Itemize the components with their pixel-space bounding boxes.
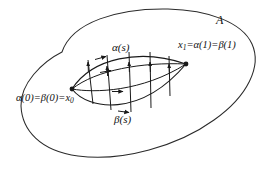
basepoint-x0-label: α(0)=β(0)=x0 [16, 93, 74, 104]
basepoint-x0-subscript: 0 [70, 96, 74, 105]
homotopy-lens [70, 52, 189, 113]
beta-path-label: β(s) [114, 114, 131, 125]
endpoint-x1-equality: =α(1)=β(1) [186, 39, 235, 50]
basepoint-x0-dot [70, 87, 75, 92]
region-A-boundary [21, 9, 255, 157]
alpha-path-label: α(s) [112, 42, 129, 53]
basepoint-x0-equality: α(0)=β(0)=x [16, 92, 70, 103]
homotopy-segment-4 [150, 52, 151, 108]
homotopy-segment-1 [88, 60, 93, 104]
endpoint-x1-dot [184, 62, 189, 67]
alpha-direction-arrow [95, 57, 106, 60]
homotopy-segment-5 [169, 56, 170, 96]
homotopy-segment-2 [107, 55, 111, 110]
homotopy-diagram: A α(s) β(s) x1=α(1)=β(1) α(0)=β(0)=x0 [0, 0, 269, 173]
endpoint-x1-label: x1=α(1)=β(1) [178, 40, 236, 51]
region-label-A: A [216, 14, 223, 26]
diagram-canvas [0, 0, 269, 173]
